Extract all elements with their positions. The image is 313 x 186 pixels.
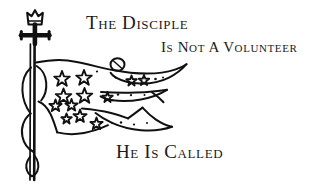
artwork-canvas: The Disciple Is Not A Volunteer He Is Ca… [0,0,313,186]
banner-ring [111,58,125,70]
caption-line-he-is-called: He Is Called [116,142,223,161]
caption-line-the-disciple: The Disciple [86,13,188,32]
cross-icon [21,25,49,44]
caption-line-is-not-a-volunteer: Is Not A Volunteer [161,40,297,55]
flag-pole [30,43,35,180]
